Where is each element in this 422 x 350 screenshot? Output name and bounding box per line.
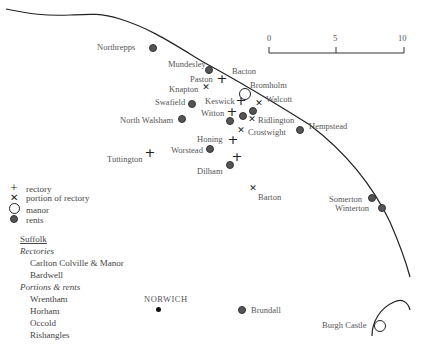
suffolk-item: Rishangles: [20, 329, 124, 341]
rents-icon: [239, 112, 247, 120]
place-label: Hempstead: [309, 121, 347, 131]
place-label: Burgh Castle: [322, 320, 366, 330]
place-label: Walcott: [266, 94, 292, 104]
rents-icon: [368, 194, 376, 202]
place-label: Mundesley: [168, 59, 206, 69]
place-label: Northrepps: [97, 42, 135, 52]
legend-portion: ✕portion of rectory: [8, 192, 89, 203]
place-label: Winterton: [335, 203, 369, 213]
suffolk-category-rectories: Rectories: [20, 245, 124, 257]
rents-icon: [296, 126, 304, 134]
portion-icon: ✕: [249, 184, 258, 193]
place-label: Swafield: [155, 97, 185, 107]
place-label: Brundall: [251, 305, 281, 315]
place-label: Witton: [201, 108, 224, 118]
suffolk-list: Suffolk Rectories Carlton Colville & Man…: [20, 233, 124, 341]
rents-icon: [149, 44, 157, 52]
norwich-city-dot: [156, 307, 161, 312]
rents-icon: [178, 115, 186, 123]
place-label: Bacton: [232, 66, 256, 76]
legend-rents: rents: [8, 215, 44, 225]
scale-tick-5: 5: [333, 33, 337, 43]
suffolk-category-portions: Portions & rents: [20, 281, 124, 293]
place-label: Tuttington: [107, 154, 143, 164]
suffolk-item: Bardwell: [20, 269, 124, 281]
scale-bar: [269, 47, 404, 53]
rents-icon: [226, 117, 234, 125]
rents-icon: [238, 306, 246, 314]
place-label: Honing: [197, 134, 223, 144]
manor-icon: [374, 320, 386, 332]
manor-icon: [8, 203, 20, 215]
suffolk-item: Wrentham: [20, 293, 124, 305]
rents-icon: [378, 204, 386, 212]
place-label: Bromholm: [250, 80, 287, 90]
rectory-icon: +: [232, 152, 241, 161]
suffolk-item: Carlton Colville & Manor: [20, 257, 124, 269]
rectory-icon: +: [217, 74, 226, 83]
portion-icon: ✕: [255, 99, 264, 108]
scale-tick-0: 0: [267, 33, 271, 43]
place-label: North Walsham: [120, 115, 173, 125]
rents-icon: [188, 100, 196, 108]
place-label: Barton: [258, 192, 281, 202]
rectory-icon: +: [228, 135, 237, 144]
place-label: Crostwight: [248, 127, 286, 137]
rectory-icon: +: [227, 107, 236, 116]
place-label: Ridlington: [258, 115, 294, 125]
rents-icon: [205, 66, 213, 74]
portion-icon: ✕: [202, 83, 211, 92]
scale-tick-10: 10: [398, 33, 407, 43]
portion-icon: ✕: [8, 192, 20, 203]
place-label: Dilham: [197, 166, 223, 176]
rents-icon: [8, 215, 20, 225]
rectory-icon: +: [145, 148, 154, 157]
suffolk-item: Horham: [20, 305, 124, 317]
rents-icon: [206, 145, 214, 153]
place-label: Worstead: [171, 145, 203, 155]
place-label: Knapton: [169, 84, 198, 94]
legend-manor: manor: [8, 203, 49, 215]
norwich-label: NORWICH: [144, 294, 188, 304]
portion-icon: ✕: [248, 115, 257, 124]
suffolk-item: Occold: [20, 317, 124, 329]
suffolk-heading: Suffolk: [20, 233, 124, 245]
